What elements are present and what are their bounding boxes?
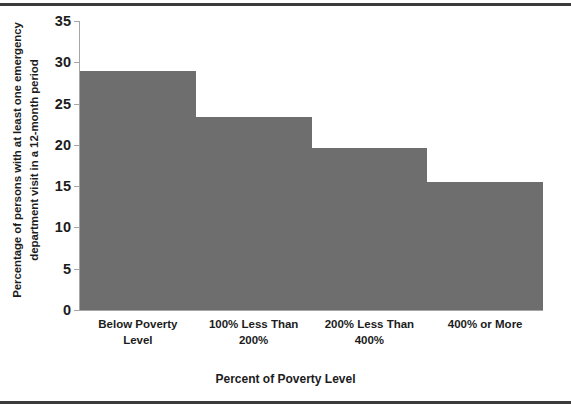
- y-axis-title-line-2: department visit in a 12-month period: [26, 22, 43, 298]
- x-axis-tick-label: Below PovertyLevel: [80, 316, 196, 362]
- x-axis-tick-label-line: 100% Less Than: [198, 316, 310, 332]
- y-axis-tick: [74, 310, 80, 311]
- y-axis-title: Percentage of persons with at least one …: [0, 0, 52, 320]
- x-axis-tick-label-line: Level: [82, 332, 194, 348]
- x-axis-tick-label-line: 400%: [314, 332, 426, 348]
- bar: [312, 148, 428, 310]
- top-divider-rule: [0, 3, 571, 6]
- y-axis-title-line-1: Percentage of persons with at least one …: [9, 22, 26, 298]
- plot-area: 05101520253035: [80, 21, 543, 310]
- x-axis-tick-label-line: 200%: [198, 332, 310, 348]
- chart-screenshot: Percentage of persons with at least one …: [0, 0, 571, 418]
- y-axis-tick-label: 10: [55, 219, 71, 235]
- bar: [427, 182, 543, 310]
- bar: [80, 71, 196, 310]
- y-axis-tick-label: 20: [55, 137, 71, 153]
- y-axis-tick-label: 35: [55, 13, 71, 29]
- bottom-divider-rule: [0, 401, 571, 404]
- x-axis-tick-label-line: Below Poverty: [82, 316, 194, 332]
- x-axis-tick-label: 200% Less Than400%: [312, 316, 428, 362]
- y-axis-tick-label: 15: [55, 178, 71, 194]
- x-axis-line: [79, 310, 543, 311]
- y-axis-tick-label: 30: [55, 54, 71, 70]
- bar: [196, 117, 312, 310]
- y-axis-tick-label: 25: [55, 96, 71, 112]
- x-axis-tick-label-line: 200% Less Than: [314, 316, 426, 332]
- y-axis-tick-label: 5: [63, 261, 71, 277]
- x-axis-tick-label: 100% Less Than200%: [196, 316, 312, 362]
- x-axis-tick-labels: Below PovertyLevel100% Less Than200%200%…: [80, 316, 543, 362]
- x-axis-title: Percent of Poverty Level: [0, 372, 571, 386]
- y-axis-tick-label: 0: [63, 302, 71, 318]
- x-axis-tick-label: 400% or More: [427, 316, 543, 362]
- bar-series: [80, 21, 543, 310]
- x-axis-tick-label-line: 400% or More: [429, 316, 541, 332]
